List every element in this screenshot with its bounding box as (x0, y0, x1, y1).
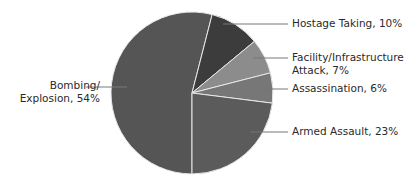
label-assassination-line1: Assassination, 6% (292, 82, 387, 95)
label-assassination: Assassination, 6% (292, 82, 387, 95)
label-facility-line1: Facility/Infrastructure (292, 51, 404, 64)
label-bombing-line2: Explosion, 54% (20, 92, 100, 105)
label-bombing-line1: Bombing/ (20, 79, 100, 92)
label-bombing: Bombing/ Explosion, 54% (20, 79, 100, 105)
label-facility-attack: Facility/Infrastructure Attack, 7% (292, 51, 404, 77)
label-facility-line2: Attack, 7% (292, 64, 404, 77)
label-hostage-taking: Hostage Taking, 10% (292, 17, 402, 30)
label-armed-assault: Armed Assault, 23% (292, 125, 398, 138)
label-armed-assault-line1: Armed Assault, 23% (292, 125, 398, 138)
pie-slices (111, 12, 273, 174)
label-hostage-line1: Hostage Taking, 10% (292, 17, 402, 30)
pie-slice-armed-assault (192, 93, 272, 174)
